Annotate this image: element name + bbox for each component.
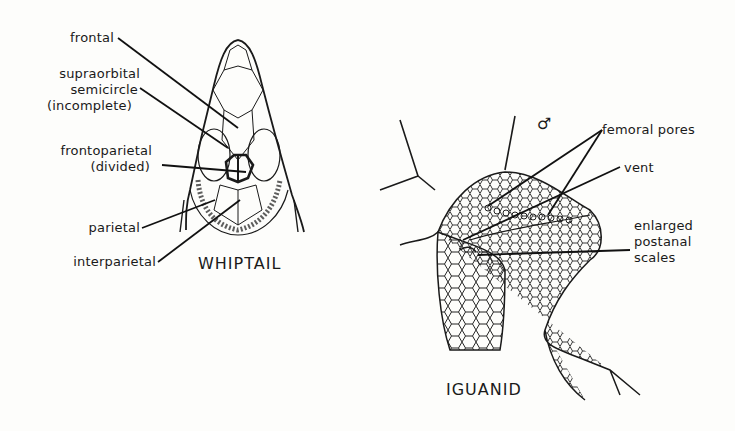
label-scales: scales <box>634 250 675 265</box>
whiptail-title: WHIPTAIL <box>198 254 281 273</box>
label-divided: (divided) <box>20 159 150 174</box>
label-femoral-pores: femoral pores <box>602 122 695 137</box>
label-vent: vent <box>624 160 654 175</box>
male-symbol: ♂ <box>537 116 552 131</box>
iguanid-title: IGUANID <box>446 380 522 399</box>
label-semicircle: semicircle <box>20 82 138 97</box>
label-frontoparietal: frontoparietal <box>20 143 152 158</box>
label-frontal: frontal <box>60 30 114 45</box>
label-postanal: postanal <box>634 234 691 249</box>
label-supraorbital: supraorbital <box>20 66 140 81</box>
label-incomplete: (incomplete) <box>20 98 132 113</box>
label-enlarged: enlarged <box>634 218 693 233</box>
lizard-scale-diagram: frontal supraorbital semicircle (incompl… <box>0 0 735 431</box>
illustration <box>0 0 735 431</box>
iguanid-hindquarters <box>380 116 640 400</box>
label-parietal: parietal <box>20 220 140 235</box>
label-interparietal: interparietal <box>20 254 156 269</box>
